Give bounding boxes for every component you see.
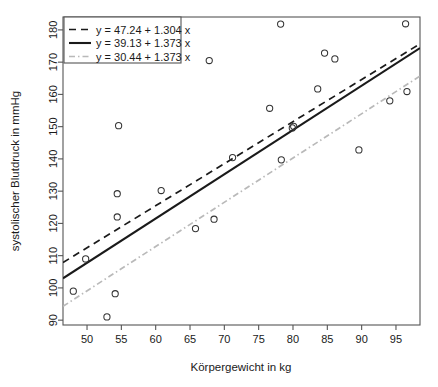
data-point	[192, 225, 198, 231]
x-tick-label: 75	[253, 333, 265, 345]
y-axis-title: systolischer Blutdruck in mmHg	[9, 91, 21, 251]
data-point	[321, 50, 327, 56]
scatter-plot-figure: 50556065707580859095 9010011012013014015…	[0, 0, 438, 387]
x-tick-label: 95	[390, 333, 402, 345]
x-axis-title: Körpergewicht in kg	[191, 361, 292, 373]
data-point	[315, 86, 321, 92]
data-point	[206, 57, 212, 63]
y-axis-ticks	[58, 30, 63, 320]
y-tick-label: 150	[47, 117, 59, 135]
x-tick-label: 90	[356, 333, 368, 345]
data-point	[114, 191, 120, 197]
x-axis-ticks	[87, 325, 396, 330]
y-tick-label: 180	[47, 21, 59, 39]
y-tick-label: 160	[47, 85, 59, 103]
data-point	[158, 187, 164, 193]
regression-line-1	[63, 44, 420, 263]
data-point	[104, 314, 110, 320]
data-point	[116, 123, 122, 129]
legend-label-3: y = 30.44 + 1.373 x	[96, 51, 191, 63]
legend-label-2: y = 39.13 + 1.373 x	[96, 37, 191, 49]
data-point	[114, 214, 120, 220]
x-tick-label: 50	[81, 333, 93, 345]
y-tick-label: 130	[47, 182, 59, 200]
y-axis-tick-labels: 90100110120130140150160170180	[47, 21, 59, 327]
x-tick-label: 80	[287, 333, 299, 345]
data-point	[112, 291, 118, 297]
y-tick-label: 140	[47, 150, 59, 168]
data-point	[70, 288, 76, 294]
chart-canvas: 50556065707580859095 9010011012013014015…	[0, 0, 438, 387]
regression-line-2	[63, 48, 420, 278]
data-point	[404, 88, 410, 94]
y-tick-label: 170	[47, 53, 59, 71]
data-point	[387, 98, 393, 104]
data-point	[83, 256, 89, 262]
legend-label-1: y = 47.24 + 1.304 x	[96, 24, 191, 36]
data-point	[229, 155, 235, 161]
y-tick-label: 90	[47, 314, 59, 326]
regression-lines	[63, 44, 420, 307]
data-point	[267, 105, 273, 111]
x-axis-tick-labels: 50556065707580859095	[81, 333, 402, 345]
data-points	[70, 21, 410, 320]
data-point	[356, 147, 362, 153]
data-point	[211, 216, 217, 222]
y-tick-label: 120	[47, 214, 59, 232]
y-tick-label: 100	[47, 279, 59, 297]
x-tick-label: 55	[115, 333, 127, 345]
data-point	[402, 21, 408, 27]
data-point	[332, 56, 338, 62]
x-tick-label: 85	[321, 333, 333, 345]
x-tick-label: 65	[184, 333, 196, 345]
data-point	[278, 157, 284, 163]
x-tick-label: 60	[150, 333, 162, 345]
legend: y = 47.24 + 1.304 xy = 39.13 + 1.373 xy …	[64, 17, 191, 63]
x-tick-label: 70	[218, 333, 230, 345]
data-point	[278, 21, 284, 27]
y-tick-label: 110	[47, 247, 59, 265]
